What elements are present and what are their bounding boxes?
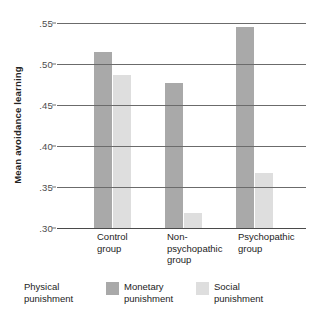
y-tick-label: .35 xyxy=(39,182,53,193)
bar xyxy=(236,27,254,228)
bar-group xyxy=(94,23,131,228)
x-axis-label-line: Control xyxy=(97,231,128,243)
y-tick-label: .45 xyxy=(39,100,53,111)
y-tick-label: .55 xyxy=(39,18,53,29)
x-axis-label: Non-psychopathicgroup xyxy=(167,231,222,266)
legend-item: Physical punishment xyxy=(24,281,73,304)
legend-label: Social punishment xyxy=(214,281,263,304)
bar-group xyxy=(236,23,273,228)
plot-area: .55.50.45.40.35.30 xyxy=(57,23,306,228)
legend-swatch-icon xyxy=(106,282,119,295)
bar xyxy=(94,52,112,228)
bar xyxy=(113,75,131,228)
y-tick-mark xyxy=(52,23,56,24)
legend-item: Monetary punishment xyxy=(106,281,173,304)
legend-label: Physical punishment xyxy=(24,281,73,304)
x-axis-label-line: group xyxy=(238,243,295,255)
bar-group xyxy=(165,23,202,228)
y-axis-label: Mean avoidance learning xyxy=(12,66,23,184)
legend-item: Social punishment xyxy=(196,281,263,304)
x-axis-label-line: psychopathic xyxy=(167,243,222,255)
gridline xyxy=(57,146,306,147)
x-axis-label: Psychopathicgroup xyxy=(238,231,295,254)
bars-container xyxy=(57,23,306,228)
bar-chart-figure: Mean avoidance learning .55.50.45.40.35.… xyxy=(0,0,322,321)
gridline xyxy=(57,64,306,65)
axis-baseline xyxy=(57,228,306,229)
bar xyxy=(255,173,273,228)
gridline xyxy=(57,187,306,188)
y-tick-label: .50 xyxy=(39,59,53,70)
x-axis-label: Controlgroup xyxy=(97,231,128,254)
y-tick-mark xyxy=(52,64,56,65)
y-tick-label: .40 xyxy=(39,141,53,152)
legend-swatch-icon xyxy=(196,282,209,295)
gridline xyxy=(57,23,306,24)
x-axis-label-line: Non- xyxy=(167,231,222,243)
legend-label: Monetary punishment xyxy=(124,281,173,304)
y-tick-mark xyxy=(52,228,56,229)
x-axis-label-line: group xyxy=(167,254,222,266)
x-axis-label-line: Psychopathic xyxy=(238,231,295,243)
x-axis-label-line: group xyxy=(97,243,128,255)
chart-legend: Physical punishmentMonetary punishmentSo… xyxy=(24,281,310,311)
y-axis-label-container: Mean avoidance learning xyxy=(8,20,26,230)
x-axis-labels: ControlgroupNon-psychopathicgroupPsychop… xyxy=(57,231,306,275)
y-tick-label: .30 xyxy=(39,223,53,234)
y-tick-mark xyxy=(52,146,56,147)
gridline xyxy=(57,105,306,106)
y-tick-mark xyxy=(52,105,56,106)
bar xyxy=(184,213,202,228)
y-tick-mark xyxy=(52,187,56,188)
